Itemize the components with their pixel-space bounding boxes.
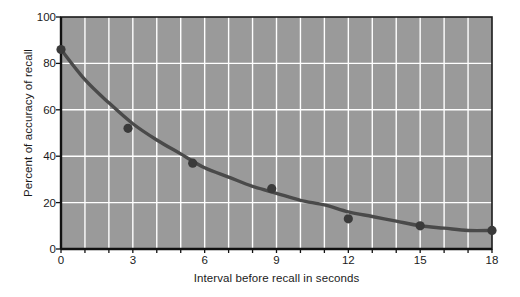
plot-area <box>0 0 520 297</box>
data-point <box>416 221 425 230</box>
data-point <box>123 124 132 133</box>
data-point <box>487 226 496 235</box>
data-point <box>267 184 276 193</box>
data-point <box>344 214 353 223</box>
chart-figure: Percent of accuracy of recall Interval b… <box>0 0 520 297</box>
data-point <box>56 45 65 54</box>
data-point <box>188 159 197 168</box>
